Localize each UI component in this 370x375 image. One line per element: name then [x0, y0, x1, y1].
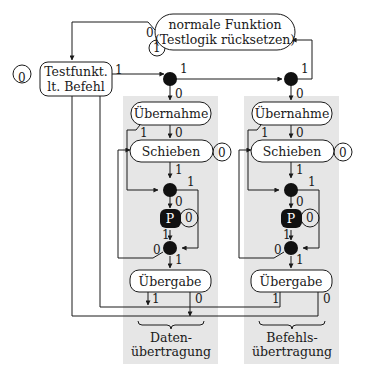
state-normal: normale Funktion (Testlogik rücksetzen) — [155, 14, 296, 50]
svg-text:0: 0 — [146, 26, 154, 40]
svg-text:1: 1 — [153, 41, 161, 55]
svg-text:1: 1 — [283, 228, 291, 242]
svg-text:1: 1 — [162, 228, 170, 242]
svg-text:Übergabe: Übergabe — [260, 273, 323, 289]
svg-text:1: 1 — [187, 175, 195, 189]
svg-text:1: 1 — [180, 62, 188, 76]
svg-text:Schieben: Schieben — [142, 144, 200, 159]
group-label-befehls: Befehls- — [266, 330, 317, 345]
svg-text:0: 0 — [218, 146, 226, 160]
state-uebernahme-right: Übernahme — [252, 102, 332, 125]
svg-text:0: 0 — [18, 71, 26, 85]
svg-text:0: 0 — [274, 243, 282, 257]
svg-text:0: 0 — [195, 292, 203, 306]
svg-text:0: 0 — [296, 87, 304, 101]
state-pause-right: P — [281, 209, 302, 228]
svg-text:1: 1 — [175, 253, 183, 267]
junction-right-top — [284, 72, 298, 86]
svg-text:0: 0 — [296, 126, 304, 140]
svg-text:1: 1 — [152, 292, 160, 306]
svg-text:0: 0 — [306, 211, 314, 225]
state-schieben-left: Schieben — [130, 140, 213, 162]
svg-text:1: 1 — [115, 63, 123, 77]
svg-text:übertragung: übertragung — [252, 344, 332, 359]
state-uebergabe-right: Übergabe — [251, 270, 332, 292]
svg-text:Testfunkt.: Testfunkt. — [44, 64, 108, 79]
svg-text:Übernahme: Übernahme — [255, 105, 330, 121]
svg-text:1: 1 — [272, 292, 280, 306]
svg-text:0: 0 — [153, 243, 161, 257]
svg-text:(Testlogik rücksetzen): (Testlogik rücksetzen) — [155, 32, 296, 47]
svg-text:1: 1 — [308, 175, 316, 189]
svg-text:Übergabe: Übergabe — [139, 273, 202, 289]
svg-text:übertragung: übertragung — [131, 344, 211, 359]
svg-text:normale Funktion: normale Funktion — [168, 17, 281, 32]
svg-text:1: 1 — [296, 253, 304, 267]
svg-text:1: 1 — [261, 126, 269, 140]
svg-text:0: 0 — [323, 292, 331, 306]
svg-text:0: 0 — [296, 195, 304, 209]
svg-text:1: 1 — [296, 163, 304, 177]
svg-text:0: 0 — [175, 87, 183, 101]
svg-text:1: 1 — [140, 126, 148, 140]
state-pause-left: P — [160, 209, 181, 228]
state-uebergabe-left: Übergabe — [130, 270, 211, 292]
junction-left-top — [163, 72, 177, 86]
state-testfunkt: Testfunkt. lt. Befehl — [40, 62, 112, 96]
svg-text:0: 0 — [175, 126, 183, 140]
state-diagram: normale Funktion (Testlogik rücksetzen) … — [0, 0, 370, 375]
svg-text:P: P — [287, 211, 295, 226]
group-label-daten: Daten- — [150, 330, 192, 345]
svg-text:1: 1 — [301, 62, 309, 76]
svg-text:lt. Befehl: lt. Befehl — [47, 79, 105, 94]
svg-text:Schieben: Schieben — [263, 144, 321, 159]
svg-text:P: P — [166, 211, 174, 226]
svg-text:0: 0 — [185, 211, 193, 225]
svg-text:Übernahme: Übernahme — [134, 105, 209, 121]
svg-text:0: 0 — [175, 195, 183, 209]
svg-text:0: 0 — [339, 146, 347, 160]
svg-text:1: 1 — [175, 163, 183, 177]
state-uebernahme-left: Übernahme — [131, 102, 211, 125]
state-schieben-right: Schieben — [251, 140, 334, 162]
